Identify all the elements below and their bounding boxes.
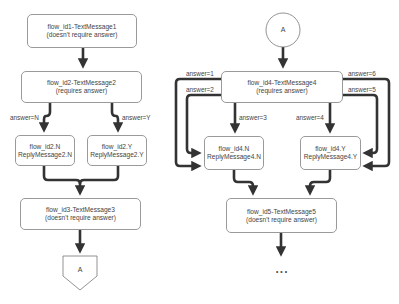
edge-n [44,103,50,128]
node-subtitle: ReplyMessage4.Y [304,153,358,161]
edge-label-answer-1: answer=1 [186,70,214,77]
edge-label-answer-6: answer=6 [348,70,376,77]
flow-node-textmessage4: flow_id4-TextMessage4 (requires answer) [221,71,343,103]
node-subtitle: (requires answer) [56,87,107,95]
edge-label-answer-4: answer=4 [296,114,324,121]
node-title: flow_id4.Y [315,145,345,153]
onpage-connector-label: A [266,26,300,33]
node-subtitle: (doesn't require answer) [45,214,116,222]
flow-node-textmessage3: flow_id3-TextMessage3 (doesn't require a… [20,198,141,230]
node-title: flow_id3-TextMessage3 [46,206,115,214]
flow-node-reply2y: flow_id2.Y ReplyMessage2.Y [87,135,147,166]
flow-node-reply4n: flow_id4.N ReplyMessage4.N [204,136,264,170]
offpage-connector-shape [63,256,97,290]
node-subtitle: ReplyMessage2.N [18,151,72,159]
node-title: flow_id2.N [30,143,61,151]
edge-n-3 [44,166,80,191]
flow-node-reply4y: flow_id4.Y ReplyMessage4.Y [300,136,361,170]
node-subtitle: ReplyMessage2.Y [90,151,144,159]
edge-y-3 [80,166,118,184]
flow-node-reply2n: flow_id2.N ReplyMessage2.N [15,135,75,166]
node-title: flow_id2.Y [102,143,132,151]
offpage-connector-label: A [63,266,97,273]
edge-4n-5 [234,170,253,191]
edge-label-answer-y: answer=Y [122,114,151,121]
node-subtitle: (doesn't require answer) [47,31,118,39]
edge-label-answer-2: answer=2 [186,86,214,93]
node-subtitle: (doesn't require answer) [246,216,317,224]
continuation-ellipsis: ... [262,262,302,276]
edge-4y-5 [310,170,330,191]
flow-node-textmessage2: flow_id2-TextMessage2 (requires answer) [21,71,142,103]
node-title: flow_id1-TextMessage1 [48,23,117,31]
edge-label-answer-5: answer=5 [348,86,376,93]
node-title: flow_id5-TextMessage5 [247,208,316,216]
node-title: flow_id4.N [219,145,250,153]
edge-label-answer-n: answer=N [10,114,39,121]
node-title: flow_id2-TextMessage2 [47,79,116,87]
flow-node-textmessage1: flow_id1-TextMessage1 (doesn't require a… [27,14,137,48]
flow-node-textmessage5: flow_id5-TextMessage5 (doesn't require a… [226,198,337,233]
node-title: flow_id4-TextMessage4 [248,79,317,87]
node-subtitle: (requires answer) [256,87,307,95]
node-subtitle: ReplyMessage4.N [207,153,261,161]
edge-label-answer-3: answer=3 [239,114,267,121]
edge-y [112,103,118,128]
